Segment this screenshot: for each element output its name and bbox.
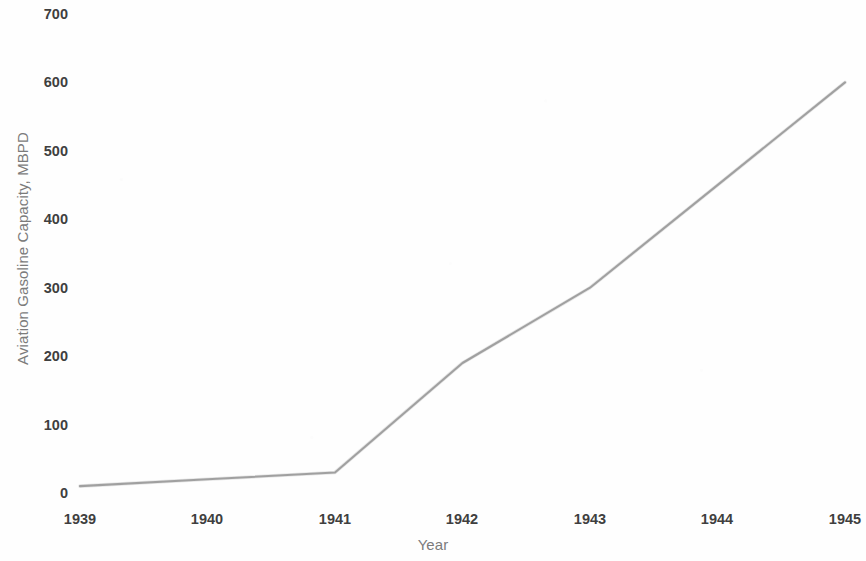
y-tick-label: 400 [8,212,68,227]
y-tick-label: 700 [8,7,68,22]
x-tick-label: 1940 [162,512,252,527]
plot-area [0,0,866,561]
y-tick-label: 300 [8,281,68,296]
series-line-ghost [80,82,845,486]
y-tick-label: 100 [8,418,68,433]
y-tick-label: 500 [8,144,68,159]
series-line [80,82,845,486]
x-tick-label: 1941 [290,512,380,527]
y-tick-label: 0 [8,486,68,501]
x-tick-label: 1939 [35,512,125,527]
scan-texture-overlay [0,0,866,561]
y-axis-title: Aviation Gasoline Capacity, MBPD [14,69,31,429]
x-tick-label: 1945 [800,512,866,527]
x-tick-label: 1942 [417,512,507,527]
x-tick-label: 1944 [672,512,762,527]
x-tick-label: 1943 [545,512,635,527]
y-tick-label: 200 [8,349,68,364]
y-tick-label: 600 [8,75,68,90]
line-chart: Aviation Gasoline Capacity, MBPD 700 600… [0,0,866,561]
x-axis-title: Year [0,536,866,553]
